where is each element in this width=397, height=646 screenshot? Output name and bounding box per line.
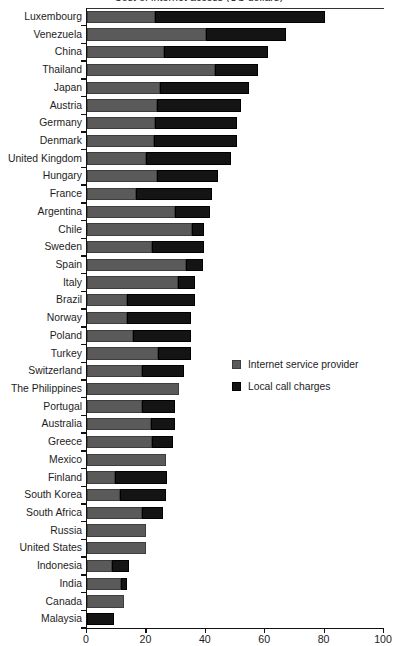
- bar-segment-isp[interactable]: [87, 135, 154, 147]
- bar-segment-isp[interactable]: [87, 595, 124, 607]
- bar-segment-isp[interactable]: [87, 46, 164, 58]
- chart-row: Japan: [0, 79, 397, 97]
- chart-row: United States: [0, 539, 397, 557]
- bar-segment-isp[interactable]: [87, 99, 157, 111]
- bar-segment-isp[interactable]: [87, 365, 142, 377]
- category-label: United States: [0, 539, 82, 557]
- bar-segment-isp[interactable]: [87, 276, 178, 288]
- bar-segment-local-call[interactable]: [157, 99, 242, 111]
- chart-row: Austria: [0, 97, 397, 115]
- bar-segment-local-call[interactable]: [157, 170, 218, 182]
- bar-segment-isp[interactable]: [87, 436, 152, 448]
- bar-segment-isp[interactable]: [87, 259, 186, 271]
- chart-row: Switzerland: [0, 362, 397, 380]
- bar-segment-isp[interactable]: [87, 383, 179, 395]
- bar-segment-isp[interactable]: [87, 454, 166, 466]
- category-label: Thailand: [0, 61, 82, 79]
- category-label: India: [0, 575, 82, 593]
- bar-segment-local-call[interactable]: [127, 294, 195, 306]
- bar-segment-local-call[interactable]: [142, 365, 184, 377]
- chart-row: Russia: [0, 522, 397, 540]
- bar-segment-local-call[interactable]: [164, 46, 268, 58]
- category-label: Austria: [0, 97, 82, 115]
- bar-segment-isp[interactable]: [87, 188, 136, 200]
- chart-row: Sweden: [0, 238, 397, 256]
- bar-segment-isp[interactable]: [87, 418, 151, 430]
- bar-segment-isp[interactable]: [87, 347, 158, 359]
- bar-segment-isp[interactable]: [87, 524, 146, 536]
- category-label: Norway: [0, 309, 82, 327]
- bar-segment-local-call[interactable]: [142, 400, 175, 412]
- chart-row: Australia: [0, 415, 397, 433]
- bar-segment-local-call[interactable]: [186, 259, 202, 271]
- chart-row: Chile: [0, 221, 397, 239]
- chart-row: Brazil: [0, 291, 397, 309]
- chart-row: Portugal: [0, 398, 397, 416]
- chart-title: Cost of internet access (US dollars): [0, 0, 397, 2]
- bar-segment-local-call[interactable]: [142, 507, 163, 519]
- bar-segment-isp[interactable]: [87, 294, 127, 306]
- category-label: South Korea: [0, 486, 82, 504]
- bar-segment-isp[interactable]: [87, 206, 175, 218]
- bar-segment-isp[interactable]: [87, 82, 160, 94]
- category-label: Finland: [0, 469, 82, 487]
- category-label: Indonesia: [0, 557, 82, 575]
- category-label: Chile: [0, 221, 82, 239]
- category-label: Luxembourg: [0, 8, 82, 26]
- category-label: Brazil: [0, 291, 82, 309]
- bar-segment-isp[interactable]: [87, 117, 155, 129]
- bar-segment-isp[interactable]: [87, 578, 121, 590]
- chart-row: Argentina: [0, 203, 397, 221]
- bar-segment-local-call[interactable]: [206, 28, 286, 40]
- bar-segment-isp[interactable]: [87, 11, 155, 23]
- bar-segment-local-call[interactable]: [155, 11, 324, 23]
- bar-segment-local-call[interactable]: [158, 347, 191, 359]
- category-label: Mexico: [0, 451, 82, 469]
- category-label: Greece: [0, 433, 82, 451]
- bar-segment-local-call[interactable]: [120, 489, 166, 501]
- bar-segment-local-call[interactable]: [115, 471, 167, 483]
- chart-row: South Africa: [0, 504, 397, 522]
- stacked-bar-chart: Cost of internet access (US dollars) 020…: [0, 0, 397, 646]
- bar-segment-isp[interactable]: [87, 471, 115, 483]
- bar-segment-local-call[interactable]: [112, 560, 128, 572]
- bar-segment-isp[interactable]: [87, 241, 152, 253]
- bar-segment-isp[interactable]: [87, 507, 142, 519]
- bar-segment-local-call[interactable]: [160, 82, 249, 94]
- bar-segment-local-call[interactable]: [192, 223, 204, 235]
- bar-segment-local-call[interactable]: [133, 330, 191, 342]
- bar-segment-isp[interactable]: [87, 542, 146, 554]
- bar-segment-local-call[interactable]: [146, 152, 231, 164]
- bar-segment-local-call[interactable]: [151, 418, 175, 430]
- bar-segment-isp[interactable]: [87, 170, 157, 182]
- bar-segment-local-call[interactable]: [154, 135, 237, 147]
- bar-segment-isp[interactable]: [87, 28, 206, 40]
- bar-segment-isp[interactable]: [87, 489, 120, 501]
- bar-segment-isp[interactable]: [87, 64, 215, 76]
- bar-segment-isp[interactable]: [87, 312, 127, 324]
- category-label: Denmark: [0, 132, 82, 150]
- bar-segment-local-call[interactable]: [127, 312, 191, 324]
- bar-segment-local-call[interactable]: [155, 117, 237, 129]
- x-axis-tick-label: 100: [363, 633, 397, 645]
- category-label: Venezuela: [0, 26, 82, 44]
- category-label: United Kingdom: [0, 150, 82, 168]
- chart-row: Luxembourg: [0, 8, 397, 26]
- bar-segment-isp[interactable]: [87, 330, 133, 342]
- bar-segment-isp[interactable]: [87, 560, 112, 572]
- chart-row: Hungary: [0, 167, 397, 185]
- bar-segment-isp[interactable]: [87, 400, 142, 412]
- bar-segment-local-call[interactable]: [152, 436, 173, 448]
- bar-segment-local-call[interactable]: [152, 241, 204, 253]
- bar-segment-local-call[interactable]: [178, 276, 196, 288]
- bar-segment-local-call[interactable]: [121, 578, 127, 590]
- bar-segment-isp[interactable]: [87, 152, 146, 164]
- bar-segment-local-call[interactable]: [87, 613, 114, 625]
- chart-row: China: [0, 43, 397, 61]
- bar-segment-local-call[interactable]: [215, 64, 258, 76]
- category-label: Spain: [0, 256, 82, 274]
- category-label: Canada: [0, 593, 82, 611]
- bar-segment-local-call[interactable]: [136, 188, 212, 200]
- bar-segment-local-call[interactable]: [175, 206, 211, 218]
- bar-segment-isp[interactable]: [87, 223, 192, 235]
